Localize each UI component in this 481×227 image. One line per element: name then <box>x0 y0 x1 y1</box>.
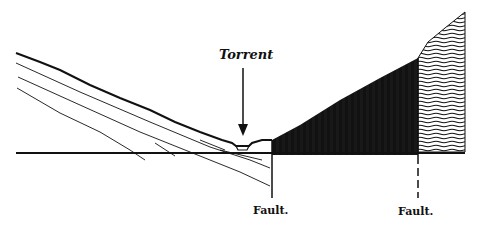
left-strata-lines <box>16 63 270 186</box>
dark-strata-block <box>272 58 418 155</box>
arrow-head-icon <box>238 124 248 136</box>
fault-label-left: Fault. <box>253 204 288 217</box>
geological-cross-section <box>0 0 481 227</box>
left-slope-surface <box>16 53 272 146</box>
fault-label-right: Fault. <box>398 205 433 218</box>
torrent-label: Torrent <box>219 47 273 62</box>
wavy-strata-block <box>418 12 465 152</box>
